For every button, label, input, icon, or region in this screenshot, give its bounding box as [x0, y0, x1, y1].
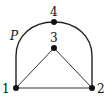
- node-label-4: 4: [50, 5, 58, 19]
- graph-diagram: 1 2 3 4 P: [0, 0, 107, 99]
- path-label: P: [9, 29, 19, 43]
- node-4: [51, 19, 57, 25]
- node-1: [13, 85, 19, 91]
- node-2: [89, 85, 95, 91]
- edge-3-2: [54, 48, 92, 88]
- node-3: [51, 45, 57, 51]
- node-label-3: 3: [50, 31, 58, 45]
- node-label-2: 2: [97, 82, 105, 96]
- edge-1-3: [16, 48, 54, 88]
- node-label-1: 1: [2, 82, 10, 96]
